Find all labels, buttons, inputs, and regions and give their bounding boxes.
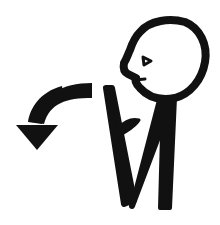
eye-icon <box>143 57 151 65</box>
body-arms-icon <box>106 88 175 208</box>
head-profile-icon <box>124 20 206 99</box>
curved-arrow-down-left-icon <box>16 83 92 150</box>
mouth-icon <box>135 79 145 80</box>
pictogram-canvas: Pictogram: person in profile with hand n… <box>0 0 220 225</box>
pictogram <box>0 0 220 225</box>
